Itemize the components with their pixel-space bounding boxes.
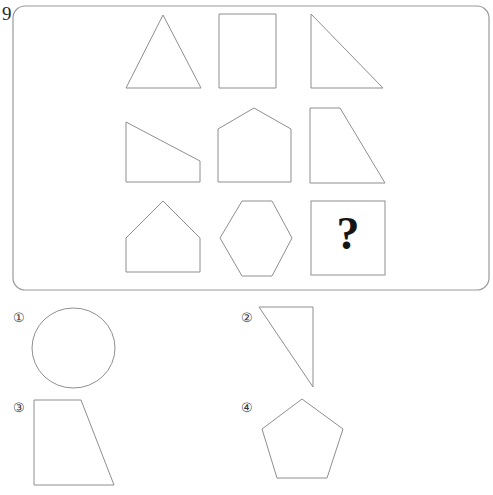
matrix-panel — [13, 6, 489, 290]
question-mark-icon: ? — [337, 208, 360, 259]
option-pentagon[interactable] — [262, 399, 343, 478]
question-number: 9 — [2, 3, 12, 24]
puzzle-canvas: 9 ? ①②③④ — [0, 0, 493, 495]
option-label-1[interactable]: ① — [13, 310, 25, 325]
option-label-4[interactable]: ④ — [241, 400, 253, 415]
answer-option-group: ①②③④ — [13, 307, 343, 485]
option-circle[interactable] — [32, 308, 115, 388]
option-label-3[interactable]: ③ — [13, 400, 25, 415]
option-label-2[interactable]: ② — [241, 310, 253, 325]
option-right-triangle[interactable] — [259, 307, 313, 387]
puzzle-page: 9 ? ①②③④ — [0, 0, 493, 495]
option-trapezoid[interactable] — [34, 400, 114, 485]
